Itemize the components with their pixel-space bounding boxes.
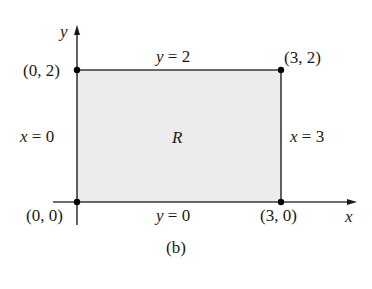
y-axis-arrow-icon — [74, 25, 80, 35]
x-axis-arrow-icon — [347, 199, 357, 205]
label-top-boundary: y = 2 — [154, 47, 190, 66]
label-bottom-boundary: y = 0 — [154, 206, 190, 225]
label-left-boundary: x = 0 — [19, 127, 54, 146]
label-right-boundary: x = 3 — [289, 127, 324, 146]
label-corner-0-0: (0, 0) — [26, 206, 63, 225]
point-0-2 — [74, 67, 80, 73]
label-corner-0-2: (0, 2) — [23, 61, 60, 80]
figure-caption: (b) — [166, 238, 186, 257]
label-corner-3-0: (3, 0) — [260, 206, 297, 225]
point-3-2 — [278, 67, 284, 73]
label-corner-3-2: (3, 2) — [284, 48, 321, 67]
y-axis-label: y — [58, 22, 68, 41]
point-3-0 — [278, 199, 284, 205]
region-label: R — [171, 128, 183, 147]
diagram-canvas: y x y = 2 y = 0 x = 0 x = 3 (0, 2) (3, 2… — [0, 0, 372, 289]
x-axis-label: x — [344, 207, 353, 226]
point-0-0 — [74, 199, 80, 205]
